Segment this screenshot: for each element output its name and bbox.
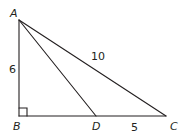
vertex-label-c: C [170, 120, 178, 133]
right-angle-marker [19, 108, 27, 116]
side-label-dc: 5 [131, 121, 138, 134]
vertex-label-d: D [92, 120, 100, 133]
vertex-label-a: A [9, 7, 18, 20]
triangle-diagram: A B D C 6 10 5 [0, 0, 184, 134]
segment-ac [19, 20, 166, 116]
segment-ad [19, 20, 96, 116]
vertex-label-b: B [13, 120, 21, 133]
side-label-ac: 10 [91, 50, 105, 63]
side-label-ab: 6 [9, 63, 16, 76]
